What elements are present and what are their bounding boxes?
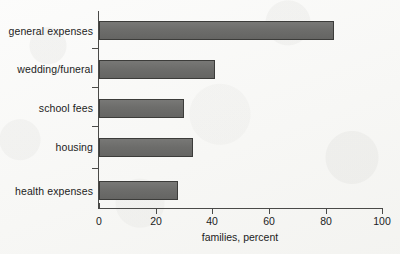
y-axis-tick-3 (92, 126, 98, 127)
x-axis-label-20: 20 (150, 216, 162, 227)
x-axis-title: families, percent (0, 232, 400, 243)
x-axis-tick-80 (326, 209, 327, 214)
x-axis-tick-100 (382, 209, 383, 214)
x-axis-label-0: 0 (96, 216, 102, 227)
x-axis-label-60: 60 (263, 216, 275, 227)
x-axis-title-text: families, percent (202, 231, 278, 243)
category-label-wedding-funeral: wedding/funeral (17, 64, 93, 75)
bar-housing (99, 138, 193, 157)
x-axis-tick-20 (156, 209, 157, 214)
category-label-general-expenses: general expenses (9, 26, 94, 37)
y-axis-line (98, 11, 99, 209)
x-axis-tick-40 (212, 209, 213, 214)
category-label-housing: housing (56, 142, 93, 153)
x-axis-label-100: 100 (373, 216, 391, 227)
x-axis-line (98, 208, 383, 209)
bar-general-expenses (99, 21, 334, 40)
chart-page: general expenses wedding/funeral school … (0, 0, 400, 254)
bar-health-expenses (99, 181, 178, 200)
x-axis-tick-0 (99, 203, 100, 208)
y-axis-tick-2 (92, 87, 98, 88)
bar-wedding-funeral (99, 60, 215, 79)
x-axis-label-80: 80 (320, 216, 332, 227)
x-axis-label-40: 40 (206, 216, 218, 227)
y-axis-tick-1 (92, 48, 98, 49)
category-label-health-expenses: health expenses (15, 186, 93, 197)
bar-chart-plot: general expenses wedding/funeral school … (0, 0, 400, 254)
bar-school-fees (99, 99, 184, 118)
y-axis-tick-4 (92, 168, 98, 169)
x-axis-tick-60 (269, 209, 270, 214)
category-label-school-fees: school fees (39, 103, 93, 114)
